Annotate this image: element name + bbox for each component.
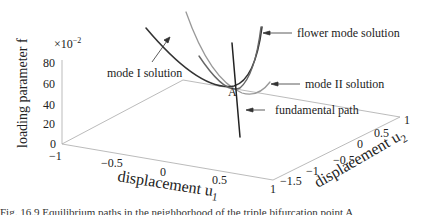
svg-text:−1.5: −1.5 bbox=[280, 174, 302, 188]
svg-text:80: 80 bbox=[43, 56, 55, 70]
fundamental-path-label: fundamental path bbox=[275, 103, 359, 117]
flower-mode-curve bbox=[199, 27, 261, 89]
mode-ii-label: mode II solution bbox=[305, 77, 384, 91]
svg-text:1: 1 bbox=[270, 182, 276, 196]
mode-i-label: mode I solution bbox=[107, 66, 182, 80]
z-axis-label: loading parameter f bbox=[15, 38, 30, 148]
svg-text:1: 1 bbox=[404, 113, 410, 127]
flower-mode-label: flower mode solution bbox=[297, 26, 400, 40]
point-a-label: A bbox=[228, 85, 237, 99]
svg-text:−1: −1 bbox=[49, 149, 62, 163]
svg-text:20: 20 bbox=[43, 117, 55, 131]
y-ticks: −1.5 −1 −0.5 0 0.5 1 bbox=[280, 113, 410, 188]
x-axis-label: displacement u1 bbox=[116, 167, 220, 203]
chart-3d: 80 60 40 20 0 ×10−2 loading parameter f … bbox=[0, 0, 421, 215]
svg-text:60: 60 bbox=[43, 77, 55, 91]
svg-text:40: 40 bbox=[43, 98, 55, 112]
svg-text:0.5: 0.5 bbox=[212, 173, 227, 187]
z-multiplier: ×10−2 bbox=[54, 36, 81, 51]
z-ticks: 80 60 40 20 0 bbox=[43, 56, 56, 151]
y-axis-label: displacement u2 bbox=[311, 125, 409, 193]
figure-caption: Fig. 16.9 Equilibrium paths in the neigh… bbox=[0, 206, 353, 215]
